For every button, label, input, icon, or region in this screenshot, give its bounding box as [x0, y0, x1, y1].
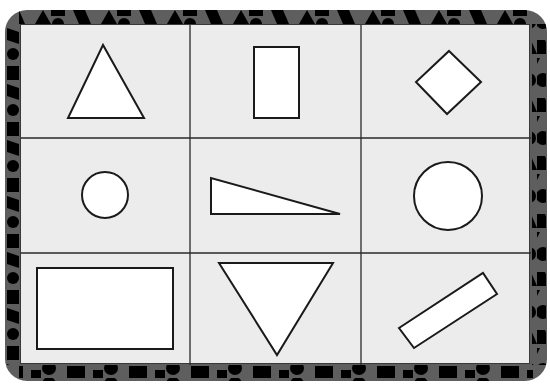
vertical-rectangle-shape	[254, 47, 299, 118]
diamond-shape	[416, 51, 481, 114]
small-circle-shape	[82, 172, 128, 218]
large-circle-shape	[414, 162, 482, 230]
inverted-triangle-shape	[219, 263, 333, 355]
horizontal-rectangle-shape	[37, 268, 173, 349]
shape-grid-panel	[20, 24, 530, 364]
triangle-shape	[68, 45, 144, 118]
shape-grid	[21, 25, 531, 365]
rotated-rectangle-shape	[399, 273, 497, 348]
right-triangle-shape	[211, 178, 340, 214]
